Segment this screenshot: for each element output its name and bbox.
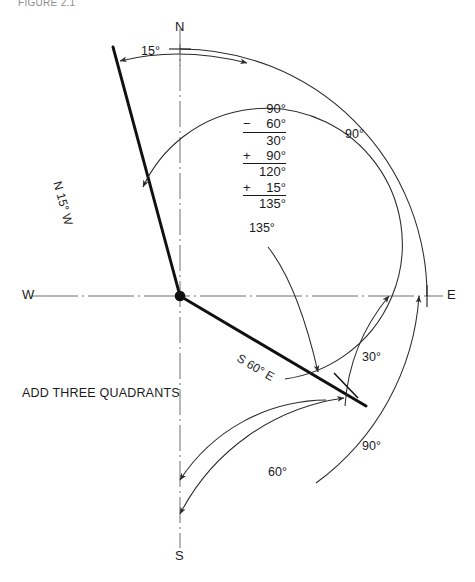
calculation-row: 30° xyxy=(243,132,286,148)
calculation-row: 135° xyxy=(243,195,286,211)
calculation-value: 90° xyxy=(256,148,286,164)
angle-90-lower-right-arc xyxy=(316,296,419,483)
calculation-row: +90° xyxy=(243,148,286,164)
calculation-operator: + xyxy=(243,148,256,164)
label-north: N xyxy=(175,20,184,34)
calculation-rows: 90°−60°30°+90°120°+15°135° xyxy=(243,101,286,211)
origin-point xyxy=(175,291,186,302)
angle-90-lower-label: 90° xyxy=(362,440,381,453)
angle-15-label: 15° xyxy=(141,45,160,58)
label-south: S xyxy=(175,549,184,563)
bearing-line-n15w xyxy=(113,47,180,296)
angle-30-label: 30° xyxy=(362,351,381,364)
bearing-diagram xyxy=(0,0,475,582)
calculation-table: 90°−60°30°+90°120°+15°135° xyxy=(243,101,286,211)
calculation-value: 30° xyxy=(256,132,286,148)
calculation-operator xyxy=(243,101,256,116)
bearing-line-s60e xyxy=(180,296,366,406)
figure-caption: ADD THREE QUADRANTS xyxy=(22,387,180,400)
angle-90-upper-label: 90° xyxy=(345,128,364,141)
calculation-row: −60° xyxy=(243,116,286,132)
calculation-value: 15° xyxy=(256,180,286,196)
azimuth-calculation: 90°−60°30°+90°120°+15°135° xyxy=(243,101,286,211)
calculation-row: 90° xyxy=(243,101,286,116)
label-west: W xyxy=(22,288,34,302)
calculation-operator xyxy=(243,132,256,148)
calculation-row: 120° xyxy=(243,164,286,180)
calculation-operator: + xyxy=(243,180,256,196)
angle-135-label: 135° xyxy=(249,222,275,235)
angle-90-lower-arc xyxy=(180,398,344,514)
angle-60-label: 60° xyxy=(268,466,287,479)
calculation-operator xyxy=(243,195,256,211)
angle-15-arc xyxy=(120,54,247,63)
calculation-operator: − xyxy=(243,116,256,132)
calculation-value: 135° xyxy=(256,195,286,211)
calculation-value: 120° xyxy=(256,164,286,180)
label-east: E xyxy=(447,288,456,302)
calculation-value: 60° xyxy=(256,116,286,132)
calculation-value: 90° xyxy=(256,101,286,116)
angle-60-arc xyxy=(180,400,326,480)
angle-90-upper-arc xyxy=(180,49,427,296)
calculation-row: +15° xyxy=(243,180,286,196)
figure-page: FIGURE 2.1 xyxy=(0,0,475,582)
calculation-operator xyxy=(243,164,256,180)
